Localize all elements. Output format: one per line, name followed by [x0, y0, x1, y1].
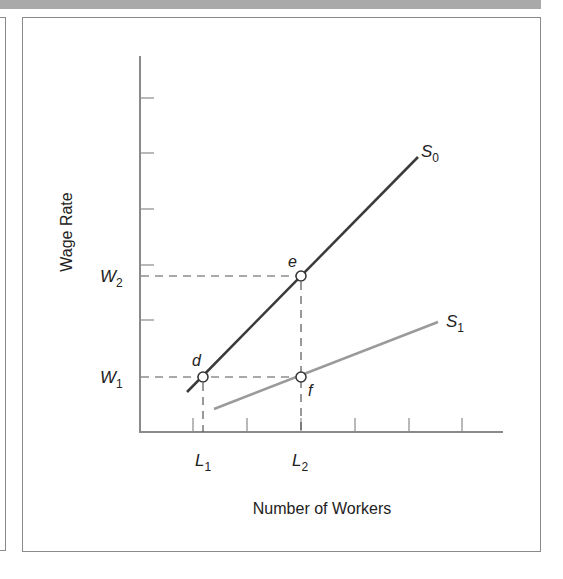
l1-tick-label: L1 — [195, 451, 211, 474]
point-f-label: f — [308, 382, 314, 399]
point-d-label: d — [192, 352, 202, 369]
x-axis-title: Number of Workers — [253, 500, 391, 517]
axes — [139, 56, 503, 433]
point-e-label: e — [288, 253, 297, 270]
l2-tick-label: L2 — [292, 451, 308, 474]
labor-supply-chart: d e f S0 S1 W2 W1 L1 L2 Wage Rate Number… — [0, 0, 563, 579]
y-axis-ticks — [140, 98, 154, 320]
s1-label: S1 — [446, 312, 464, 335]
s0-label: S0 — [421, 142, 439, 165]
w2-tick-label: W2 — [100, 267, 123, 290]
point-f-marker — [296, 372, 306, 382]
supply-curve-s1 — [214, 322, 438, 409]
y-axis-title: Wage Rate — [58, 192, 75, 272]
point-e-marker — [296, 271, 306, 281]
w1-tick-label: W1 — [100, 368, 123, 391]
point-d-marker — [198, 372, 208, 382]
x-axis-ticks — [193, 418, 462, 432]
